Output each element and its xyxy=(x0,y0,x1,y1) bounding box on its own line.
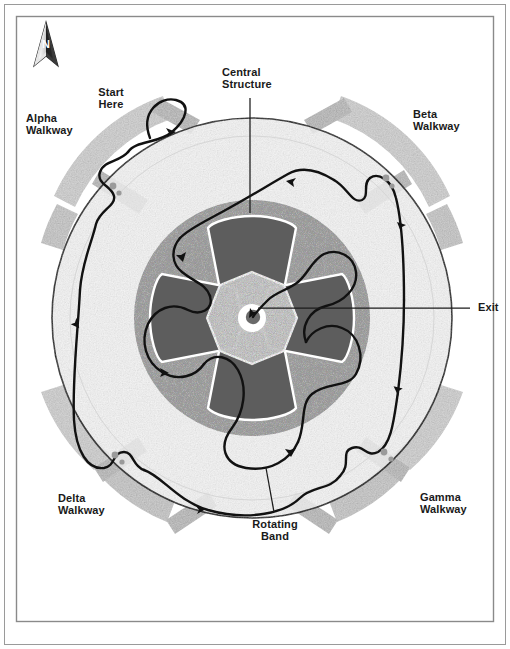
label-exit: Exit xyxy=(478,301,508,313)
label-alpha-walkway: Alpha Walkway xyxy=(26,112,110,137)
label-beta-walkway: Beta Walkway xyxy=(413,108,495,133)
label-central-structure: Central Structure xyxy=(222,66,314,91)
diagram-canvas: N Start Here Alpha Walkway Central Struc… xyxy=(0,0,510,649)
route-map-svg: N xyxy=(0,0,510,649)
label-delta-walkway: Delta Walkway xyxy=(58,492,142,517)
label-rotating-band: Rotating Band xyxy=(232,518,318,543)
svg-text:N: N xyxy=(42,38,50,50)
label-start-here: Start Here xyxy=(78,86,144,111)
label-gamma-walkway: Gamma Walkway xyxy=(420,491,506,516)
